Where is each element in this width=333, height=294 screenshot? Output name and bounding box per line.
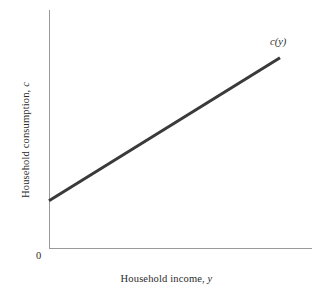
x-axis-label-text: Household income, [121,273,205,284]
x-axis-label-symbol: y [208,273,213,284]
y-axis-label-text: Household consumption, [20,90,31,198]
figure-canvas: 0 c(y) Household income, y Household con… [0,0,333,294]
consumption-function-line [49,58,280,201]
origin-label: 0 [36,250,41,261]
x-axis-label: Household income, y [0,273,333,284]
y-axis-label-wrapper: Household consumption, c [14,0,36,294]
curve-label-cy: c(y) [270,36,286,47]
y-axis-label: Household consumption, c [20,82,31,198]
y-axis-label-symbol: c [20,82,31,87]
